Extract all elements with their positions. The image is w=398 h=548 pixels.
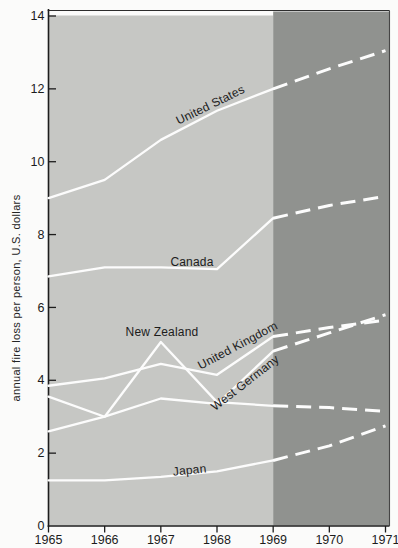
label-new-zealand: New Zealand <box>126 325 199 339</box>
label-canada: Canada <box>170 255 213 269</box>
x-tick-label-1965: 1965 <box>35 533 63 547</box>
x-tick-label-1971: 1971 <box>372 533 398 547</box>
y-tick-label-12: 12 <box>31 82 45 96</box>
y-tick-label-0: 0 <box>38 519 45 533</box>
y-tick-label-4: 4 <box>38 373 45 387</box>
x-tick-label-1968: 1968 <box>203 533 231 547</box>
y-tick-label-14: 14 <box>31 9 45 23</box>
region-projected <box>273 12 389 526</box>
x-tick-label-1967: 1967 <box>147 533 175 547</box>
y-tick-label-6: 6 <box>38 301 45 315</box>
y-axis-title: annual fire loss per person, U.S. dollar… <box>10 194 22 401</box>
x-tick-label-1966: 1966 <box>91 533 119 547</box>
fire-loss-line-chart: 024681012141965196619671968196919701971 … <box>0 0 398 548</box>
scanned-chart-page: 024681012141965196619671968196919701971 … <box>0 0 398 548</box>
x-tick-label-1969: 1969 <box>259 533 287 547</box>
x-tick-label-1970: 1970 <box>315 533 343 547</box>
y-tick-label-8: 8 <box>38 228 45 242</box>
y-tick-label-2: 2 <box>38 446 45 460</box>
y-tick-label-10: 10 <box>31 155 45 169</box>
